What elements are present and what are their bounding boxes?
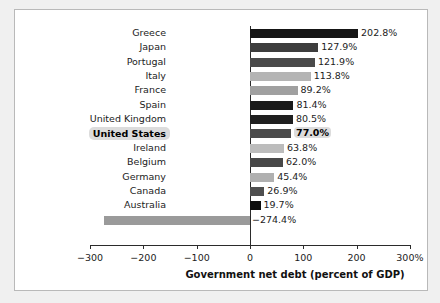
bar-united-kingdom <box>250 115 293 124</box>
value-label-japan: 127.9% <box>321 41 357 52</box>
bar-japan <box>250 43 318 52</box>
x-axis-tick-label: 300% <box>380 252 440 263</box>
category-label-ireland: Ireland <box>20 142 166 153</box>
bar-canada <box>250 187 264 196</box>
category-label-australia: Australia <box>20 199 166 210</box>
category-label-canada: Canada <box>20 185 166 196</box>
x-axis-tick-label: 0 <box>220 252 280 263</box>
value-label-france: 89.2% <box>301 84 331 95</box>
value-label-belgium: 62.0% <box>286 156 316 167</box>
category-label-portugal: Portugal <box>20 56 166 67</box>
category-label-greece: Greece <box>20 27 166 38</box>
bar-belgium <box>250 158 283 167</box>
value-label-germany: 45.4% <box>277 171 307 182</box>
x-axis-tick-label: −200 <box>113 252 173 263</box>
value-label-italy: 113.8% <box>314 70 350 81</box>
x-axis-tick-label: 100 <box>273 252 333 263</box>
bar-norway <box>104 216 250 225</box>
bar-spain <box>250 101 293 110</box>
category-label-germany: Germany <box>20 171 166 182</box>
x-axis-tick <box>197 245 198 249</box>
category-label-japan: Japan <box>20 41 166 52</box>
value-label-portugal: 121.9% <box>318 56 354 67</box>
category-label-spain: Spain <box>20 99 166 110</box>
category-label-belgium: Belgium <box>20 156 166 167</box>
x-axis-tick <box>303 245 304 249</box>
bar-united-states <box>250 129 291 138</box>
value-label-canada: 26.9% <box>267 185 297 196</box>
value-label-australia: 19.7% <box>264 199 294 210</box>
chart-figure: −300−200−1000100200300%Greece202.8%Japan… <box>0 0 440 303</box>
bar-portugal <box>250 58 315 67</box>
x-axis-title: Government net debt (percent of GDP) <box>0 269 440 280</box>
value-label-united-kingdom: 80.5% <box>296 113 326 124</box>
bar-ireland <box>250 144 284 153</box>
value-label-united-states: 77.0% <box>294 127 331 138</box>
x-axis-tick <box>143 245 144 249</box>
value-label-greece: 202.8% <box>361 27 397 38</box>
plot-area: −300−200−1000100200300%Greece202.8%Japan… <box>0 0 440 303</box>
value-label-spain: 81.4% <box>296 99 326 110</box>
x-axis-tick <box>90 245 91 249</box>
x-axis-tick <box>410 245 411 249</box>
category-label-italy: Italy <box>20 70 166 81</box>
x-axis-tick <box>250 245 251 249</box>
category-label-united-kingdom: United Kingdom <box>20 113 166 124</box>
bar-australia <box>250 201 261 210</box>
bar-france <box>250 86 298 95</box>
bar-greece <box>250 29 358 38</box>
x-axis-tick-label: 200 <box>327 252 387 263</box>
x-axis-tick <box>357 245 358 249</box>
category-label-france: France <box>20 84 166 95</box>
x-axis-tick-label: −300 <box>60 252 120 263</box>
value-label-norway: −274.4% <box>252 214 296 225</box>
x-axis-tick-label: −100 <box>167 252 227 263</box>
category-label-united-states: United States <box>89 127 170 140</box>
bar-germany <box>250 173 274 182</box>
bar-italy <box>250 72 311 81</box>
value-label-ireland: 63.8% <box>287 142 317 153</box>
